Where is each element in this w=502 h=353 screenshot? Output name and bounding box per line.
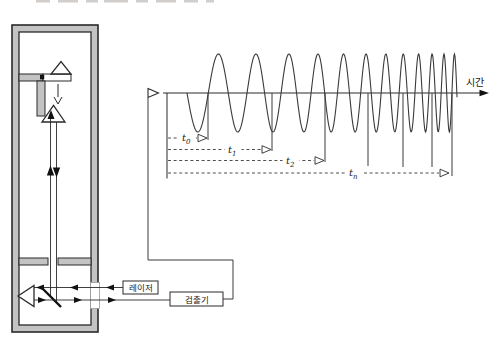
shelf-right [58, 258, 91, 265]
waveform-plot: 시간 t0t1t2tn [163, 54, 489, 181]
free-fall-interferometer-diagram: 레이저 검출기 시간 t0t1t2tn [0, 0, 502, 353]
left-arrowhead-icon [106, 285, 114, 291]
time-axis-arrowhead-icon [480, 90, 490, 96]
cropped-caption-remnant [36, 0, 214, 3]
suspension-rod [37, 81, 45, 116]
time-axis-label: 시간 [466, 77, 484, 88]
tube-window [91, 283, 100, 309]
interval-arrowhead-icon [315, 157, 324, 165]
detector-box: 검출기 [170, 292, 223, 306]
signal-input-arrow-icon [148, 89, 159, 98]
laser-box: 레이저 [123, 281, 158, 294]
interval-arrowhead-icon [198, 134, 207, 142]
interval-marker-t1: t1 [168, 144, 271, 158]
interval-arrowhead-icon [440, 169, 449, 177]
laser-label: 레이저 [129, 283, 153, 293]
drop-tube [12, 25, 100, 332]
interval-marker-tn: tn [168, 167, 449, 181]
support-arm [19, 74, 43, 81]
interval-marker-t0: t0 [168, 132, 207, 146]
interval-arrowhead-icon [262, 146, 271, 154]
shelf-left [19, 258, 48, 265]
pivot-dot [40, 75, 44, 80]
prism-mount-plate [43, 74, 71, 81]
diagram-canvas: 레이저 검출기 시간 t0t1t2tn [0, 0, 502, 353]
interval-markers: t0t1t2tn [168, 132, 449, 181]
detector-label: 검출기 [185, 295, 209, 305]
right-arrowhead-icon [108, 297, 116, 303]
interval-marker-t2: t2 [168, 155, 324, 169]
detector-signal-line [148, 98, 233, 299]
